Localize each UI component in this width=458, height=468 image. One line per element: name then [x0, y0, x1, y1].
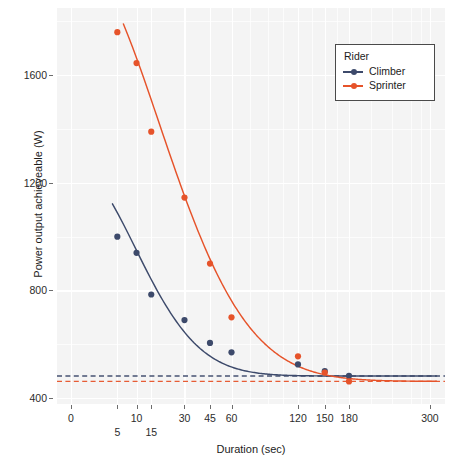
- x-tick-label: 30: [179, 412, 191, 424]
- legend-key-dot: [351, 83, 357, 89]
- legend-key-icon: [343, 66, 363, 77]
- x-tick-label: 180: [340, 412, 358, 424]
- legend: Rider ClimberSprinter: [335, 44, 435, 101]
- data-point: [207, 260, 213, 266]
- x-tick-label: 10: [131, 412, 143, 424]
- y-tick-mark: [49, 290, 53, 291]
- x-axis-title: Duration (sec): [57, 443, 445, 455]
- x-tick-mark: [71, 405, 72, 409]
- data-point: [181, 317, 187, 323]
- data-point: [207, 340, 213, 346]
- x-tick-mark: [325, 405, 326, 409]
- x-tick-mark: [184, 405, 185, 409]
- data-point: [295, 353, 301, 359]
- x-tick-mark: [151, 405, 152, 409]
- legend-label: Climber: [369, 66, 405, 77]
- x-tick-label: 0: [68, 412, 74, 424]
- legend-entries: ClimberSprinter: [343, 66, 427, 91]
- x-tick-mark: [210, 405, 211, 409]
- data-point: [228, 349, 234, 355]
- y-tick-label: 400: [29, 392, 47, 404]
- points-sprinter: [114, 29, 352, 384]
- x-tick-label: 150: [316, 412, 334, 424]
- x-tick-label: 15: [145, 426, 157, 438]
- data-point: [133, 250, 139, 256]
- y-axis-title-wrap: Power output achieveable (W): [14, 0, 28, 412]
- x-tick-mark: [232, 405, 233, 409]
- legend-key-icon: [343, 80, 363, 91]
- x-tick-mark: [117, 405, 118, 409]
- data-point: [346, 373, 352, 379]
- y-axis-title: Power output achieveable (W): [32, 84, 44, 324]
- x-tick-mark: [349, 405, 350, 409]
- x-tick-label: 5: [114, 426, 120, 438]
- data-point: [295, 361, 301, 367]
- legend-entry-sprinter[interactable]: Sprinter: [343, 80, 427, 91]
- x-tick-label: 300: [421, 412, 439, 424]
- data-point: [114, 29, 120, 35]
- data-point: [322, 369, 328, 375]
- x-tick-label: 45: [204, 412, 216, 424]
- legend-entry-climber[interactable]: Climber: [343, 66, 427, 77]
- data-point: [148, 129, 154, 135]
- legend-label: Sprinter: [369, 80, 406, 91]
- legend-key-dot: [351, 69, 357, 75]
- chart-root: 40080012001600 051015304560120150180300 …: [0, 0, 458, 468]
- points-climber: [114, 234, 352, 379]
- y-tick-mark: [49, 398, 53, 399]
- x-tick-label: 60: [226, 412, 238, 424]
- data-point: [133, 60, 139, 66]
- data-point: [114, 234, 120, 240]
- x-tick-mark: [430, 405, 431, 409]
- data-point: [181, 195, 187, 201]
- data-point: [228, 314, 234, 320]
- x-tick-mark: [298, 405, 299, 409]
- x-tick-mark: [137, 405, 138, 409]
- y-tick-mark: [49, 75, 53, 76]
- data-point: [346, 378, 352, 384]
- x-tick-label: 120: [289, 412, 307, 424]
- y-tick-mark: [49, 183, 53, 184]
- fit-curve-climber: [112, 204, 436, 376]
- legend-title: Rider: [344, 50, 427, 62]
- data-point: [148, 291, 154, 297]
